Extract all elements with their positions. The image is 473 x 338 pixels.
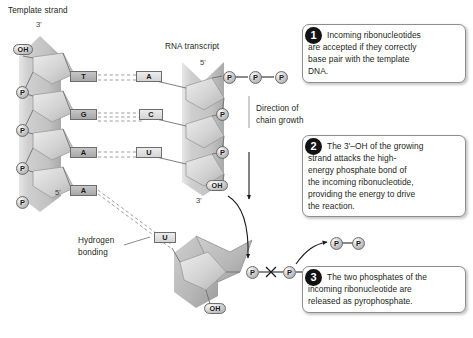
incoming-phosphate-beta: P [283,266,296,279]
rna-5prime-label: 5' [200,58,206,67]
callout-badge-3: 3 [305,269,322,286]
template-base-g: G [70,109,97,120]
hydrogen-bonding-leader [124,237,150,245]
callout-badge-2: 2 [305,138,322,155]
incoming-phosphate-alpha: P [246,266,259,279]
template-strand-label: Template strand [8,6,68,17]
direction-of-growth-label-line1: Direction of [256,104,299,115]
rna-phosphate-2: P [216,146,229,159]
callout-1-line-1: Incoming ribonucleotides [327,30,421,41]
rna-base-a: A [136,71,162,82]
callout-1-line-2: are accepted if they correctly [308,42,417,53]
callout-3-line-2: incoming ribonucleotide are [308,284,412,295]
template-base-a-1: A [70,147,97,158]
callout-badge-1: 1 [305,27,322,44]
pyrophosphate-release-arrow [296,242,327,264]
template-base-t: T [70,71,97,82]
rna-triphosphate-2: P [249,71,262,84]
template-5prime-label: 5' [55,188,61,197]
callout-1-line-3: base pair with the template [308,54,409,65]
callout-2-line-5: providing the energy to drive [308,189,415,200]
rna-base-u: U [136,147,162,158]
template-terminal-oh: OH [13,44,33,55]
callout-2-line-6: the reaction. [308,201,355,212]
template-phosphate-4: P [16,196,29,209]
rna-base-c: C [139,109,163,120]
incoming-nucleotide-oh: OH [204,303,226,314]
template-phosphate-3: P [16,162,29,175]
hydrogen-bonding-label-line2: bonding [78,248,108,259]
incoming-nucleotide-sugar [174,236,252,308]
pyrophosphate-p-1: P [330,237,343,250]
hydrogen-bonds [98,75,172,249]
template-phosphate-2: P [16,124,29,137]
callout-2-line-4: the incoming ribonucleotide, [308,177,414,188]
callout-2-line-1: The 3'–OH of the growing [327,141,423,152]
incoming-base-u: U [154,232,176,243]
rna-phosphate-1: P [216,108,229,121]
callout-3-line-1: The two phosphates of the [327,272,427,283]
template-phosphate-1: P [16,86,29,99]
hydrogen-bonding-label-line1: Hydrogen [78,236,114,247]
rna-3prime-label: 3' [196,196,202,205]
pyrophosphate-p-2: P [352,237,365,250]
callout-2-line-2: strand attacks the high- [308,153,396,164]
rna-sugar-rings [186,78,224,186]
template-base-a-2: A [70,185,97,196]
callout-1-line-4: DNA. [308,66,328,77]
rna-transcript-label: RNA transcript [165,42,219,53]
rna-terminal-oh: OH [206,180,228,191]
diagram-canvas: Template strand RNA transcript Direction… [0,0,473,338]
direction-of-growth-label-line2: chain growth [256,116,304,127]
rna-triphosphate-3: P [275,71,288,84]
rna-triphosphate-1: P [223,71,236,84]
callout-3-line-3: released as pyrophosphate. [308,296,413,307]
callout-2-line-3: energy phosphate bond of [308,165,407,176]
template-3prime-label: 3' [36,20,42,29]
